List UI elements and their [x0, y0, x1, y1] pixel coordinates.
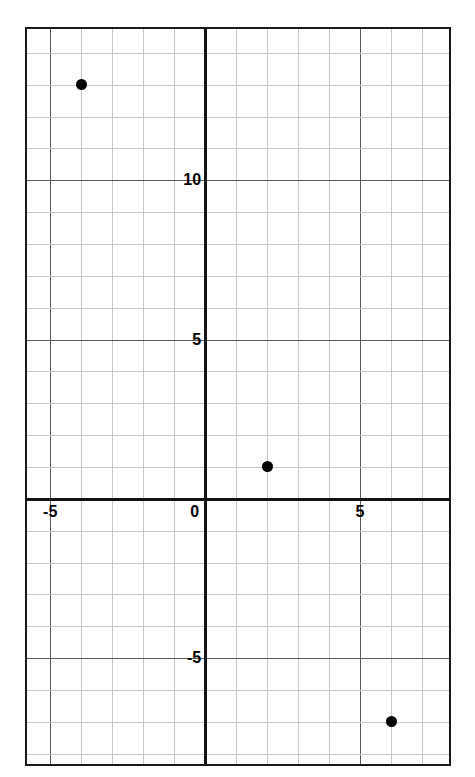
- y-tick-label-5: 5: [192, 332, 205, 348]
- plot-frame: 10 5 -5 -5 0 5: [25, 27, 451, 766]
- tick-label-layer: 10 5 -5 -5 0 5: [27, 29, 449, 764]
- y-tick-label-neg-5: -5: [187, 650, 205, 666]
- x-tick-label-5: 5: [356, 499, 365, 520]
- x-tick-label-origin: 0: [190, 499, 205, 520]
- y-tick-label-10: 10: [183, 172, 205, 188]
- x-tick-label-neg-5: -5: [43, 499, 57, 520]
- coordinate-plane-graph: 10 5 -5 -5 0 5: [0, 0, 475, 777]
